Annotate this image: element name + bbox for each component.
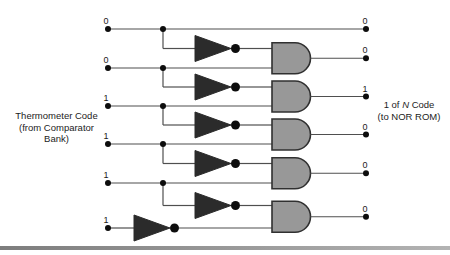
inverter-gate: [195, 74, 231, 100]
output-bit-label: 0: [362, 204, 367, 214]
output-bit-label: 0: [362, 160, 367, 170]
inverter-bubble: [231, 121, 240, 130]
inverter-gate: [195, 36, 231, 62]
thermometer-code-label: Thermometer Code (from Comparator Bank): [8, 110, 105, 145]
inverter-gate: [195, 151, 231, 177]
input-bit-label: 0: [103, 55, 108, 65]
output-node-dot: [363, 170, 369, 176]
inverter-bubble: [231, 159, 240, 168]
figure-canvas: 010000011110 Thermometer Code (from Comp…: [0, 0, 450, 255]
junction-dot: [160, 103, 166, 109]
input-node-dot: [105, 180, 111, 186]
inverter-gate: [134, 215, 170, 241]
right-label-post: Code: [412, 99, 435, 110]
output-node-dot: [363, 214, 369, 220]
and-gate: [272, 43, 310, 74]
left-label-line3: Bank): [8, 133, 105, 145]
junction-dot: [160, 141, 166, 147]
inverter-bubble: [170, 224, 179, 233]
input-node-dot: [105, 26, 111, 32]
input-node-dot: [105, 141, 111, 147]
input-bit-label: 1: [103, 170, 108, 180]
one-of-n-code-label: 1 of N Code (to NOR ROM): [369, 99, 449, 122]
bottom-rule: [0, 246, 450, 250]
output-bit-label: 1: [362, 84, 367, 94]
and-gate: [272, 81, 311, 112]
input-node-dot: [105, 225, 111, 231]
junction-dot: [160, 180, 166, 186]
right-label-pre: 1 of: [384, 99, 400, 110]
inverter-gate: [195, 193, 231, 219]
junction-dot: [160, 65, 166, 71]
output-node-dot: [363, 55, 369, 61]
output-bit-label: 0: [362, 45, 367, 55]
and-gate: [272, 119, 310, 150]
right-label-italic-n: N: [402, 99, 409, 110]
right-label-line2: (to NOR ROM): [369, 111, 449, 123]
inverter-bubble: [231, 44, 240, 53]
output-bit-label: 0: [362, 122, 367, 132]
junction-dot: [160, 26, 166, 32]
right-label-line1: 1 of N Code: [369, 99, 449, 111]
inverter-gate: [195, 112, 231, 138]
left-label-line2: (from Comparator: [8, 122, 105, 134]
inverter-bubble: [231, 83, 240, 92]
left-label-line1: Thermometer Code: [8, 110, 105, 122]
input-bit-label: 1: [103, 93, 108, 103]
input-node-dot: [105, 65, 111, 71]
output-node-dot: [363, 132, 369, 138]
and-gate: [272, 158, 311, 189]
inverter-bubble: [231, 201, 240, 210]
input-bit-label: 0: [103, 16, 108, 26]
input-bit-label: 1: [103, 215, 108, 225]
output-bit-label: 0: [362, 16, 367, 26]
output-node-dot: [363, 26, 369, 32]
input-node-dot: [105, 103, 111, 109]
and-gate: [272, 201, 311, 232]
